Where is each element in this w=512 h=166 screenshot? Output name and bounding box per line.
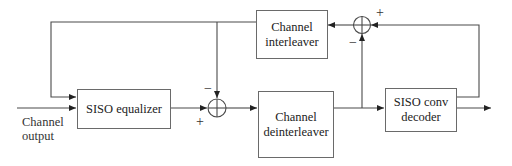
channel-interleaver-label-line2: interleaver [265, 35, 318, 50]
top-summer-minus: − [349, 36, 357, 50]
top-summer-plus: + [376, 6, 384, 20]
siso-conv-decoder-block: SISO conv decoder [385, 88, 457, 132]
interleaver-to-equalizer-wire [51, 22, 256, 97]
left-summer-plus: + [196, 115, 204, 129]
siso-conv-decoder-label-line1: SISO conv [394, 95, 449, 110]
channel-interleaver-label-line1: Channel [271, 20, 313, 35]
channel-deinterleaver-block: Channel deinterleaver [258, 91, 334, 158]
left-summer-minus: − [204, 82, 212, 96]
channel-interleaver-block: Channel interleaver [256, 10, 328, 59]
channel-output-label: Channel output [22, 115, 64, 143]
left-summer-icon [208, 99, 226, 117]
decoder-feedback-wire [371, 25, 479, 97]
channel-output-line1: Channel [22, 115, 64, 129]
channel-deinterleaver-label-line1: Channel [275, 110, 317, 125]
channel-deinterleaver-label-line2: deinterleaver [263, 125, 328, 140]
top-summer-icon [354, 17, 371, 34]
channel-output-line2: output [22, 129, 64, 143]
siso-conv-decoder-label-line2: decoder [401, 110, 441, 125]
siso-equalizer-label: SISO equalizer [86, 102, 162, 117]
siso-equalizer-block: SISO equalizer [77, 89, 171, 129]
